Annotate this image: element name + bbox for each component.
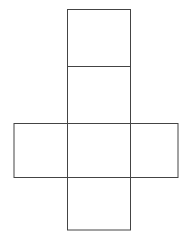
cube-face-left	[14, 124, 68, 178]
cube-face-upper-middle	[68, 67, 131, 124]
cube-face-right	[131, 124, 179, 178]
cube-face-bottom	[68, 178, 131, 231]
cube-face-top	[68, 10, 131, 67]
cube-net-diagram	[0, 0, 189, 243]
cube-face-center	[68, 124, 131, 178]
